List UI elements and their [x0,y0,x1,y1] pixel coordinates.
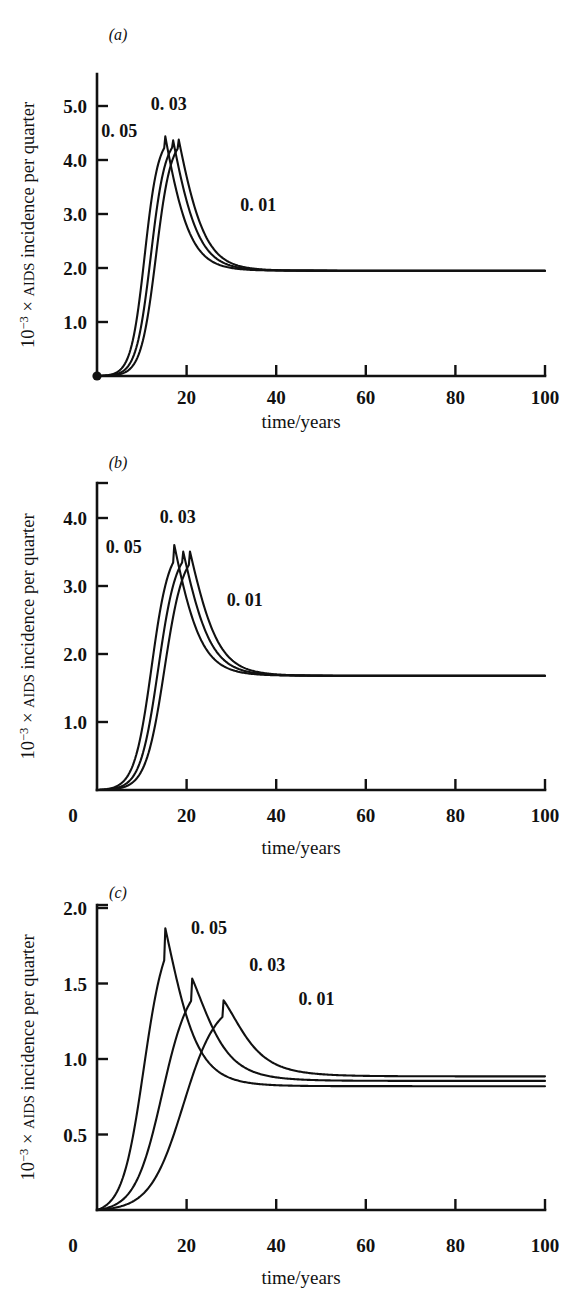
y-tick-label: 5.0 [63,96,87,117]
chart-a: (a)1.02.03.04.05.020406080100time/years1… [0,0,584,440]
x-tick-label: 20 [177,805,196,826]
x-tick-label: 60 [356,805,375,826]
x-tick-label: 40 [267,805,286,826]
y-axis-title: 10−3 × AIDS incidence per quarter [17,934,38,1180]
chart-c: (c)0.51.01.52.0204060801000time/years10−… [0,862,584,1293]
y-tick-label: 2.0 [63,898,87,919]
y-tick-label: 0.5 [63,1125,87,1146]
x-tick-label: 20 [177,387,196,408]
y-tick-label: 1.0 [63,1049,87,1070]
chart-b: (b)1.02.03.04.0204060801000time/years10−… [0,430,584,865]
curve-label: 0. 03 [160,507,196,527]
x-tick-label: 60 [356,387,375,408]
x-tick-label: 20 [177,1235,196,1256]
curve-label: 0. 01 [240,195,276,215]
curve-001 [97,1000,545,1210]
panel-letter: (c) [109,884,127,902]
curve-label: 0. 01 [227,590,263,610]
curve-label: 0. 05 [101,121,137,141]
curve-003 [97,979,545,1210]
y-tick-label: 4.0 [63,150,87,171]
x-zero-label: 0 [68,1235,78,1256]
panel-c: (c)0.51.01.52.0204060801000time/years10−… [0,862,584,1293]
curve-001 [97,140,545,376]
x-tick-label: 40 [267,387,286,408]
curve-005 [97,928,545,1210]
panel-letter: (a) [109,26,128,44]
curve-003 [97,140,545,376]
curve-label: 0. 03 [249,955,285,975]
panel-letter: (b) [109,454,128,472]
x-zero-label: 0 [68,805,78,826]
origin-marker-dot [92,371,101,380]
y-axis-title: 10−3 × AIDS incidence per quarter [17,513,38,759]
y-tick-label: 2.0 [63,644,87,665]
x-tick-label: 40 [267,1235,286,1256]
x-axis-title: time/years [261,1267,340,1288]
y-tick-label: 3.0 [63,576,87,597]
y-axis-title: 10−3 × AIDS incidence per quarter [17,102,38,348]
panel-a: (a)1.02.03.04.05.020406080100time/years1… [0,0,584,440]
y-tick-label: 1.0 [63,712,87,733]
x-tick-label: 60 [356,1235,375,1256]
x-tick-label: 80 [446,387,465,408]
panel-b: (b)1.02.03.04.0204060801000time/years10−… [0,430,584,865]
curve-label: 0. 05 [191,918,227,938]
curve-label: 0. 01 [299,989,335,1009]
curve-label: 0. 03 [151,94,187,114]
x-tick-label: 100 [531,805,560,826]
x-tick-label: 80 [446,1235,465,1256]
x-tick-label: 80 [446,805,465,826]
y-tick-label: 2.0 [63,258,87,279]
x-tick-label: 100 [531,1235,560,1256]
y-tick-label: 1.5 [63,974,87,995]
x-axis-title: time/years [261,837,340,858]
y-tick-label: 4.0 [63,508,87,529]
x-axis-title: time/years [261,411,340,432]
aids-incidence-figure: (a)1.02.03.04.05.020406080100time/years1… [0,0,584,1293]
curve-label: 0. 05 [106,537,142,557]
x-tick-label: 100 [531,387,560,408]
y-tick-label: 1.0 [63,312,87,333]
y-tick-label: 3.0 [63,204,87,225]
